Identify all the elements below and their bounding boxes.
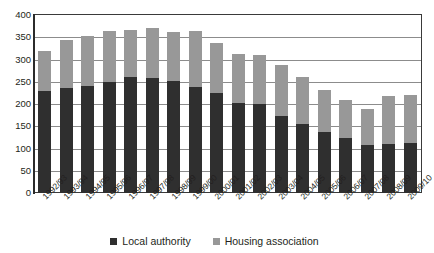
y-axis-tick-label: 150 — [3, 122, 31, 132]
bar-column — [124, 15, 137, 193]
y-axis-tick-label: 400 — [3, 10, 31, 20]
bar-column — [382, 15, 395, 193]
bar-column — [339, 15, 352, 193]
bar-segment-local-authority — [38, 91, 51, 193]
bar-column — [296, 15, 309, 193]
bar-column — [210, 15, 223, 193]
bar-column — [318, 15, 331, 193]
bar-segment-housing-association — [361, 109, 374, 145]
bar-segment-housing-association — [210, 43, 223, 94]
bar-segment-housing-association — [232, 54, 245, 103]
bar-segment-housing-association — [253, 55, 266, 105]
y-axis-tick-label: 250 — [3, 77, 31, 87]
bar-column — [38, 15, 51, 193]
bar-column — [275, 15, 288, 193]
legend-item: Housing association — [213, 236, 319, 247]
bar-segment-housing-association — [189, 31, 202, 87]
bar-segment-housing-association — [339, 100, 352, 138]
y-axis-tick-label: 350 — [3, 33, 31, 43]
bar-column — [146, 15, 159, 193]
bar-segment-housing-association — [404, 95, 417, 143]
legend-swatch — [213, 238, 220, 245]
bar-segment-housing-association — [81, 36, 94, 86]
y-axis-labels: 400350300250200150100500 — [0, 0, 31, 253]
y-axis-tick-label: 0 — [3, 188, 31, 198]
bar-column — [253, 15, 266, 193]
legend-label: Local authority — [122, 236, 190, 247]
bar-segment-housing-association — [60, 40, 73, 89]
y-axis-tick-label: 50 — [3, 166, 31, 176]
bar-segment-housing-association — [124, 30, 137, 77]
bar-segment-housing-association — [38, 51, 51, 91]
bar-column — [81, 15, 94, 193]
y-axis-tick-label: 100 — [3, 144, 31, 154]
bar-segment-housing-association — [103, 31, 116, 82]
bar-segment-housing-association — [275, 65, 288, 117]
legend-item: Local authority — [110, 236, 190, 247]
y-axis-tick-label: 300 — [3, 55, 31, 65]
bar-segment-housing-association — [146, 28, 159, 77]
bar-column — [189, 15, 202, 193]
y-axis-tick-label: 200 — [3, 99, 31, 109]
legend-swatch — [110, 238, 117, 245]
bar-column — [404, 15, 417, 193]
bar-column — [361, 15, 374, 193]
bar-column — [232, 15, 245, 193]
bar-column — [103, 15, 116, 193]
bar-segment-housing-association — [318, 90, 331, 133]
bar-column — [60, 15, 73, 193]
bar-series-layer — [34, 15, 421, 193]
bar-column — [167, 15, 180, 193]
bar-segment-housing-association — [167, 32, 180, 81]
bar-segment-housing-association — [296, 77, 309, 124]
chart-legend: Local authorityHousing association — [0, 236, 429, 247]
legend-label: Housing association — [225, 236, 319, 247]
bar-segment-housing-association — [382, 96, 395, 144]
